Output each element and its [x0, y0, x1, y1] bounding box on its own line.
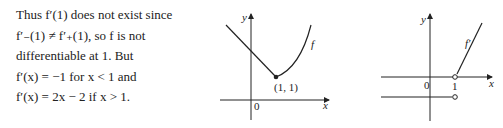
y-axis-label: y	[420, 13, 426, 25]
point-label: (1, 1)	[274, 81, 298, 94]
origin-label: 0	[424, 79, 430, 91]
tick-label-1: 1	[452, 80, 458, 92]
curve-label-fprime: f′	[465, 37, 471, 49]
figures: y x 0 (1, 1) f y x 0 1 f′	[0, 0, 503, 128]
curve-label-f: f	[311, 38, 316, 50]
f-curve-right	[276, 25, 311, 77]
open-point-upper	[453, 75, 458, 80]
graph-fprime: y x 0 1 f′	[381, 13, 494, 121]
x-axis-label: x	[488, 77, 494, 89]
x-axis-label: x	[322, 99, 328, 111]
graph-f: y x 0 (1, 1) f	[220, 11, 329, 120]
point-1-1	[274, 75, 279, 80]
y-axis-label: y	[241, 11, 247, 23]
origin-label: 0	[254, 100, 260, 112]
open-point-lower	[453, 95, 458, 100]
